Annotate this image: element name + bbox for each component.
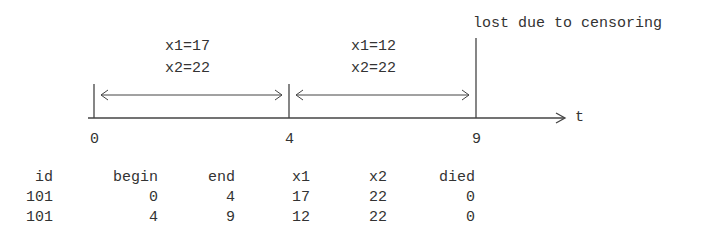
cell-died: 0 [387,187,475,207]
cell-x2: 22 [310,207,387,227]
cell-end: 4 [158,187,235,207]
tick-label-9: 9 [472,131,481,149]
cell-id: 101 [16,187,53,207]
cell-begin: 4 [53,207,158,227]
cell-x2: 22 [310,187,387,207]
header-end: end [158,167,235,187]
cell-x1: 17 [235,187,310,207]
interval-1-x2: x2=22 [165,60,210,78]
tick-label-0: 0 [90,131,99,149]
header-id: id [16,167,53,187]
interval-2-x1: x1=12 [351,38,396,56]
cell-died: 0 [387,207,475,227]
axis-label-t: t [575,109,584,127]
data-table: id begin end x1 x2 died 101 0 4 17 22 0 … [16,167,475,227]
cell-begin: 0 [53,187,158,207]
header-x1: x1 [235,167,310,187]
censor-label: lost due to censoring [473,15,662,33]
table-header-row: id begin end x1 x2 died [16,167,475,187]
header-died: died [387,167,475,187]
cell-end: 9 [158,207,235,227]
table-row: 101 4 9 12 22 0 [16,207,475,227]
header-x2: x2 [310,167,387,187]
table-row: 101 0 4 17 22 0 [16,187,475,207]
cell-id: 101 [16,207,53,227]
tick-label-4: 4 [285,131,294,149]
interval-1-x1: x1=17 [165,38,210,56]
header-begin: begin [53,167,158,187]
cell-x1: 12 [235,207,310,227]
interval-2-x2: x2=22 [351,60,396,78]
